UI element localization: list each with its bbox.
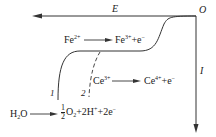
ce-arrowhead [133,79,141,83]
curve-1 [58,16,196,100]
water-products: 12O2+2H++2e− [61,104,116,121]
water-arrowhead [50,112,58,116]
half-fraction: 12 [61,104,65,121]
water-reactant: H2O [10,109,27,119]
fe-reactant: Fe2+ [64,35,80,45]
e-axis-label: E [112,4,118,14]
fe-product: Fe3++e− [115,35,145,45]
origin-label: O [199,5,206,15]
fe-arrowhead [105,38,113,42]
ce-product: Ce4++e− [144,76,175,86]
curve-2-label: 2 [81,89,86,98]
i-axis-label: I [200,66,203,76]
ce-reactant: Ce3+ [93,76,111,86]
i-axis-arrowhead [194,124,199,133]
e-axis-arrowhead [32,14,42,19]
curve-1-label: 1 [50,89,55,98]
